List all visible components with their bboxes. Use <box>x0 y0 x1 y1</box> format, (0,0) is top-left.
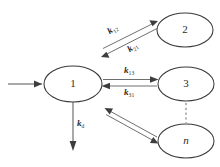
rate-label-k31-subscript: 31 <box>129 92 135 98</box>
edge-n-to-1 <box>105 108 158 137</box>
rate-label-kd: kd <box>77 119 84 128</box>
diagram-canvas: 1 2 3 n k12 k21 k13 k31 kd <box>0 0 220 167</box>
rate-label-k13-symbol: k <box>124 65 129 75</box>
rate-label-kd-symbol: k <box>77 118 82 128</box>
edge-1-decay <box>70 102 77 151</box>
rate-label-k31-symbol: k <box>124 87 129 97</box>
node-state-3-label: 3 <box>183 77 189 89</box>
rate-label-kd-subscript: d <box>82 123 85 129</box>
node-state-2-label: 2 <box>182 23 188 35</box>
edge-1-to-3 <box>103 76 159 82</box>
rate-label-k31: k31 <box>124 88 134 97</box>
node-state-1[interactable]: 1 <box>44 66 102 102</box>
node-state-3[interactable]: 3 <box>158 67 214 101</box>
node-state-1-label: 1 <box>70 77 76 89</box>
input-arrow <box>8 81 42 88</box>
node-state-n-label: n <box>183 134 189 146</box>
node-state-2[interactable]: 2 <box>157 13 213 47</box>
rate-label-k13: k13 <box>124 66 134 75</box>
edge-1-to-n <box>106 115 159 144</box>
node-state-n[interactable]: n <box>158 124 214 158</box>
rate-label-k13-subscript: 13 <box>129 70 135 76</box>
